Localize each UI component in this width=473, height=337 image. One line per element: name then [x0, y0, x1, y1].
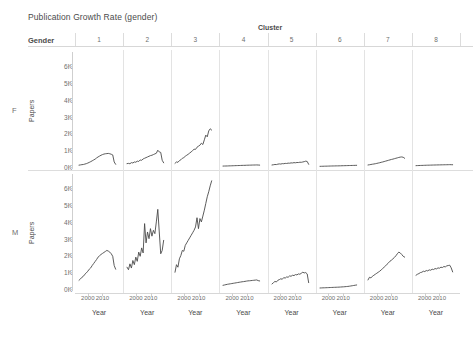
series-line — [368, 252, 405, 280]
cluster-header-1: 1 — [75, 33, 123, 46]
panel-separator — [316, 50, 317, 293]
cluster-header-3: 3 — [171, 33, 219, 46]
x-tick-mark — [232, 293, 233, 296]
series-line — [79, 250, 116, 280]
x-tick-labels-cluster-6: 20002010 — [316, 295, 364, 305]
x-tick-labels-cluster-7: 20002010 — [364, 295, 412, 305]
panel-separator — [123, 50, 124, 293]
cluster-header-label: Cluster — [258, 24, 282, 31]
x-tick-mark — [136, 293, 137, 296]
x-axis-title-cluster-3: Year — [171, 309, 219, 316]
row-separator — [28, 170, 473, 171]
x-tick-labels-cluster-8: 20002010 — [412, 295, 460, 305]
y-tick-mark — [69, 133, 72, 134]
panel-F-cluster-4 — [219, 50, 267, 171]
y-tick-mark — [69, 272, 72, 273]
gender-header-label: Gender — [28, 36, 54, 45]
cluster-header-7: 7 — [364, 33, 412, 46]
row-header-F: F — [12, 106, 30, 115]
x-tick-mark — [199, 293, 200, 296]
cluster-header-4: 4 — [219, 33, 267, 46]
series-line — [175, 181, 212, 272]
series-line — [79, 153, 116, 165]
y-tick-mark — [69, 255, 72, 256]
y-tick-mark — [69, 222, 72, 223]
x-tick-labels-cluster-2: 20002010 — [123, 295, 171, 305]
y-tick-mark — [69, 66, 72, 67]
y-tick-mark — [69, 188, 72, 189]
cluster-header-tick — [412, 33, 413, 46]
panel-separator — [412, 50, 413, 293]
x-axis-title-cluster-7: Year — [364, 309, 412, 316]
y-tick-mark — [69, 83, 72, 84]
cluster-header-2: 2 — [123, 33, 171, 46]
series-line — [416, 165, 453, 166]
y-axis-line — [72, 174, 73, 291]
x-axis-title-cluster-6: Year — [316, 309, 364, 316]
x-tick-mark — [391, 293, 392, 296]
y-tick-mark — [69, 239, 72, 240]
series-line — [320, 165, 357, 166]
series-line — [272, 161, 309, 165]
row-header-M: M — [12, 228, 30, 237]
series-line — [127, 209, 164, 269]
cluster-header-tick — [268, 33, 269, 46]
panel-M-cluster-3 — [171, 172, 219, 293]
x-tick-mark — [280, 293, 281, 296]
x-tick-labels-cluster-4: 20002010 — [219, 295, 267, 305]
panel-F-cluster-5 — [268, 50, 316, 171]
x-tick-mark — [439, 293, 440, 296]
chart-title: Publication Growth Rate (gender) — [28, 12, 157, 22]
x-tick-mark — [151, 293, 152, 296]
series-line — [416, 265, 453, 275]
panel-separator — [268, 50, 269, 293]
panel-separator — [364, 50, 365, 293]
panel-M-cluster-7 — [364, 172, 412, 293]
x-axis-title-cluster-4: Year — [219, 309, 267, 316]
panel-M-cluster-4 — [219, 172, 267, 293]
x-tick-mark — [247, 293, 248, 296]
y-tick-mark — [69, 289, 72, 290]
x-tick-labels-cluster-1: 20002010 — [75, 295, 123, 305]
y-tick-mark — [69, 167, 72, 168]
x-tick-labels-cluster-3: 20002010 — [171, 295, 219, 305]
panel-M-cluster-5 — [268, 172, 316, 293]
series-line — [175, 129, 212, 164]
panel-M-cluster-1 — [75, 172, 123, 293]
x-tick-mark — [295, 293, 296, 296]
panel-separator — [171, 50, 172, 293]
y-tick-mark — [69, 205, 72, 206]
publication-growth-chart: Publication Growth Rate (gender) Cluster… — [0, 0, 473, 337]
cluster-header-tick — [75, 33, 76, 46]
x-axis-title-cluster-8: Year — [412, 309, 460, 316]
panel-F-cluster-8 — [412, 50, 460, 171]
cluster-header-tick — [316, 33, 317, 46]
cluster-header-5: 5 — [268, 33, 316, 46]
x-tick-labels-cluster-5: 20002010 — [268, 295, 316, 305]
cluster-header-tick — [123, 33, 124, 46]
cluster-header-8: 8 — [412, 33, 460, 46]
y-tick-mark — [69, 117, 72, 118]
cluster-header-tick — [364, 33, 365, 46]
series-line — [223, 280, 260, 285]
y-tick-mark — [69, 150, 72, 151]
x-axis-title-cluster-1: Year — [75, 309, 123, 316]
cluster-header-tick — [219, 33, 220, 46]
cluster-header-tick — [171, 33, 172, 46]
panel-M-cluster-2 — [123, 172, 171, 293]
x-tick-mark — [88, 293, 89, 296]
panel-F-cluster-3 — [171, 50, 219, 171]
y-tick-mark — [69, 100, 72, 101]
series-line — [368, 157, 405, 165]
panel-F-cluster-7 — [364, 50, 412, 171]
panel-F-cluster-6 — [316, 50, 364, 171]
y-axis-line — [72, 52, 73, 169]
x-tick-mark — [425, 293, 426, 296]
series-line — [127, 150, 164, 164]
panel-M-cluster-6 — [316, 172, 364, 293]
series-line — [272, 272, 309, 284]
series-line — [320, 285, 357, 288]
panel-M-cluster-8 — [412, 172, 460, 293]
x-axis-group: 20002010Year20002010Year20002010Year2000… — [75, 293, 460, 335]
x-tick-mark — [184, 293, 185, 296]
